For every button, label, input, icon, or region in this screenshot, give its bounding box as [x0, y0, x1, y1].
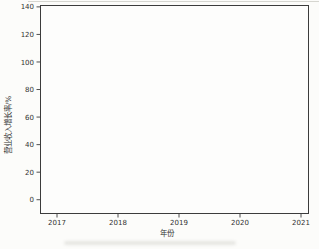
y-tick-label: 40: [25, 141, 34, 149]
plot-border: [41, 6, 309, 214]
x-tick-label: 2018: [109, 219, 127, 227]
y-tick-label: 20: [25, 169, 34, 177]
chart-canvas: 20212020201920182017140120100806040200 营…: [0, 0, 319, 249]
y-tick-label: 0: [30, 196, 34, 204]
y-tick-label: 140: [21, 3, 34, 11]
line-chart-figure: 20212020201920182017140120100806040200 营…: [0, 0, 319, 249]
y-axis-title: 营业收入增长率/%: [3, 96, 13, 155]
x-tick-label: 2021: [292, 219, 310, 227]
y-tick-label: 80: [25, 86, 34, 94]
y-tick-label: 60: [25, 114, 34, 122]
x-axis-title: 年份: [160, 228, 175, 238]
y-tick-label: 120: [21, 31, 34, 39]
x-tick-label: 2020: [231, 219, 249, 227]
x-tick-label: 2017: [48, 219, 66, 227]
x-tick-label: 2019: [170, 219, 188, 227]
y-tick-label: 100: [21, 59, 34, 67]
